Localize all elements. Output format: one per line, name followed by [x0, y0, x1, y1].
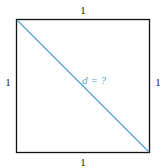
- diagonal-line: [17, 20, 149, 152]
- diagonal-label: d = ?: [82, 74, 106, 86]
- left-side-label: 1: [5, 76, 11, 88]
- right-side-label: 1: [155, 76, 161, 88]
- square-diagram: 1 1 1 1 d = ?: [0, 0, 168, 168]
- top-side-label: 1: [80, 4, 86, 16]
- bottom-side-label: 1: [80, 156, 86, 168]
